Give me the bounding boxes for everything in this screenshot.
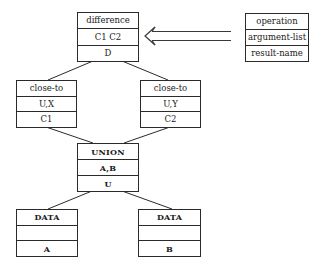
node-arguments	[17, 225, 77, 241]
edge-difference-closeto-left	[48, 61, 93, 80]
node-close-to-right: close-to U,Y C2	[140, 80, 201, 128]
node-result: A	[17, 240, 77, 256]
node-result: U	[78, 175, 138, 191]
node-union: UNION A,B U	[77, 143, 139, 192]
node-operation: UNION	[78, 144, 138, 159]
node-difference: difference C1 C2 D	[77, 12, 139, 62]
node-arguments: C1 C2	[78, 28, 138, 44]
legend-argument-list: argument-list	[246, 29, 308, 45]
edge-union-data-b	[122, 191, 172, 209]
node-operation: DATA	[17, 210, 77, 225]
edge-difference-closeto-right	[122, 61, 168, 80]
node-data-b: DATA B	[138, 209, 201, 257]
operation-tree-diagram: difference C1 C2 D operation argument-li…	[0, 0, 324, 265]
node-result: C1	[17, 111, 76, 127]
edge-closeto-right-union	[124, 127, 170, 143]
node-arguments: U,X	[17, 96, 76, 112]
node-operation: DATA	[139, 210, 200, 225]
node-data-a: DATA A	[16, 209, 78, 257]
node-close-to-left: close-to U,X C1	[16, 80, 77, 128]
node-arguments	[139, 225, 200, 241]
node-operation: close-to	[141, 81, 200, 96]
node-result: B	[139, 240, 200, 256]
legend-box: operation argument-list result-name	[245, 13, 309, 62]
edge-closeto-left-union	[46, 127, 93, 143]
legend-operation: operation	[246, 14, 308, 29]
node-result: C2	[141, 111, 200, 127]
legend-arrow-icon	[145, 27, 231, 45]
node-arguments: U,Y	[141, 96, 200, 112]
node-operation: difference	[78, 13, 138, 28]
node-operation: close-to	[17, 81, 76, 96]
node-result: D	[78, 45, 138, 61]
legend-result-name: result-name	[246, 45, 308, 61]
edge-union-data-a	[48, 191, 92, 209]
node-arguments: A,B	[78, 159, 138, 175]
